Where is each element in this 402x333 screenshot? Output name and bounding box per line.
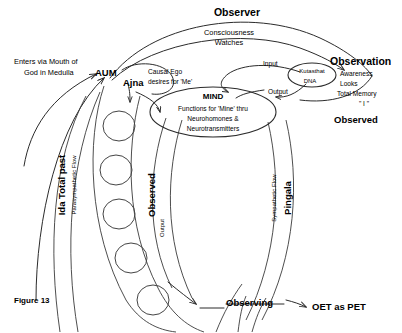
consciousness-label: Consciousness — [204, 28, 254, 37]
entry-line-1: Enters via Mouth of — [14, 57, 79, 66]
mind-line-2: Neurohomones & — [187, 115, 239, 122]
observing-label: Observing — [226, 297, 273, 308]
chakra-circle — [103, 111, 135, 141]
ajna-to-mind-arrow — [136, 92, 160, 112]
output-label: Output — [268, 88, 288, 96]
observation-item-2: Looks — [340, 80, 358, 87]
ajna-label: Ajna — [123, 77, 144, 88]
mind-line-3: Neurotransmitters — [187, 125, 240, 132]
pingala-outer-curve — [262, 120, 294, 320]
chakra-circle — [115, 243, 147, 273]
watches-label: Watches — [215, 38, 244, 47]
observation-item-4: " I " — [359, 100, 370, 107]
chakra-column — [100, 111, 169, 315]
observation-item-1: Awareness — [340, 70, 373, 77]
input-output-loop — [221, 65, 306, 98]
kutastha-line-1: Kutasthat — [299, 68, 325, 74]
sympathetic-flow-label: Sympathetic Flow — [271, 174, 277, 222]
chakra-circle — [137, 285, 169, 315]
chakra-to-observing-arrow — [168, 282, 196, 304]
parasympathetic-flow-label: Parasympathetic Flow — [71, 155, 77, 215]
observed-output-channel — [152, 118, 192, 298]
causal-ego-line-2: desires for 'Me' — [148, 78, 192, 85]
pingala-label: Pingala — [282, 180, 293, 215]
observation-item-3: Total Memory — [337, 90, 377, 98]
ajna-descend-arrows — [128, 84, 160, 112]
entry-line-2: God in Medulla — [24, 68, 75, 77]
figure-caption: Figure 13 — [14, 296, 50, 305]
observed-vertical-label: Observed — [146, 173, 157, 217]
input-label: Input — [263, 60, 278, 68]
oet-as-pet-label: OET as PET — [312, 301, 366, 312]
observed-channel-right — [170, 120, 192, 298]
observation-title: Observation — [330, 55, 391, 67]
observed-title: Observed — [334, 114, 378, 125]
ida-total-past-label: Ida Total past — [56, 154, 67, 215]
observing-to-oet-arrow — [286, 300, 306, 307]
aum-label: AUM — [95, 67, 117, 78]
kutastha-line-2: DNA — [304, 78, 317, 84]
mind-line-1: Functions for 'Mine' thru — [178, 105, 248, 112]
mind-title: MIND — [203, 92, 224, 101]
causal-ego-line-1: Causal Ego — [148, 68, 182, 76]
observer-title: Observer — [214, 6, 260, 18]
chakra-circle — [100, 155, 132, 185]
figure-13-diagram: Observer Consciousness Watches Enters vi… — [0, 0, 402, 333]
diagram-canvas: Observer Consciousness Watches Enters vi… — [0, 0, 402, 333]
chakra-circle — [103, 199, 135, 229]
output-vertical-label: Output — [159, 219, 165, 237]
